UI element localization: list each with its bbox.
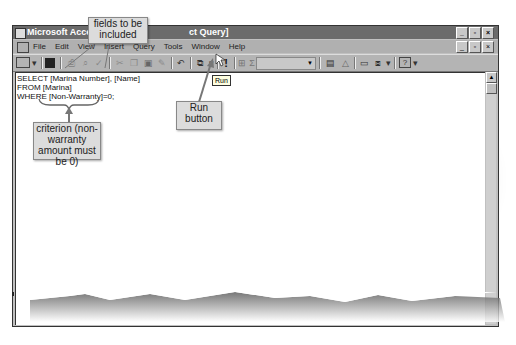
criterion-callout: criterion (non-warranty amount must be 0… <box>33 122 101 160</box>
fields-callout-text: fields to be included <box>94 18 142 40</box>
annotation-arrows <box>0 0 516 345</box>
fields-callout: fields to be included <box>88 17 148 44</box>
run-button-callout: Run button <box>176 101 222 130</box>
run-button-callout-text: Run button <box>185 102 213 124</box>
